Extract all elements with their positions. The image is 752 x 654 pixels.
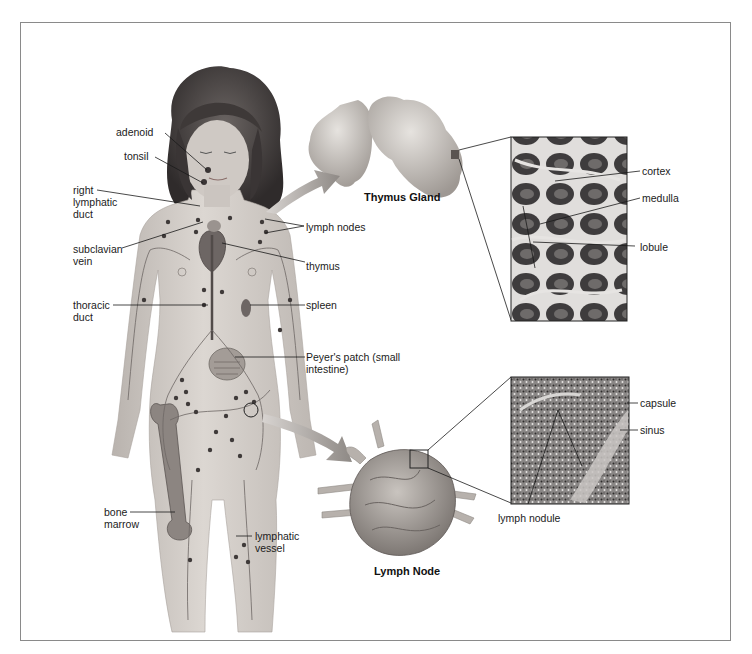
label-lymph-nodule: lymph nodule [498, 512, 560, 524]
label-lymphatic-vessel: lymphatic vessel [255, 530, 310, 554]
label-lobule: lobule [640, 241, 668, 253]
lymph-node-title: Lymph Node [374, 565, 440, 577]
label-thymus: thymus [306, 260, 340, 272]
label-capsule: capsule [640, 397, 676, 409]
label-bone-marrow: bone marrow [104, 506, 134, 530]
label-lymph-nodes: lymph nodes [306, 221, 366, 233]
lymph-node-micrograph [511, 377, 629, 504]
label-tonsil: tonsil [124, 150, 149, 162]
label-sinus: sinus [640, 424, 665, 436]
lymphatic-illustration [0, 0, 752, 654]
label-right-lymphatic-duct: right lymphatic duct [73, 184, 123, 220]
thymus-gland-title: Thymus Gland [364, 191, 440, 203]
label-cortex: cortex [642, 165, 671, 177]
label-adenoid: adenoid [116, 126, 153, 138]
thymus-micrograph [511, 137, 627, 321]
label-peyers-patch: Peyer's patch (small intestine) [306, 351, 406, 375]
thymus-zoom-lines [459, 137, 511, 320]
label-medulla: medulla [642, 192, 679, 204]
label-subclavian-vein: subclavian vein [73, 243, 123, 267]
label-spleen: spleen [306, 299, 337, 311]
label-thoracic-duct: thoracic duct [73, 299, 113, 323]
